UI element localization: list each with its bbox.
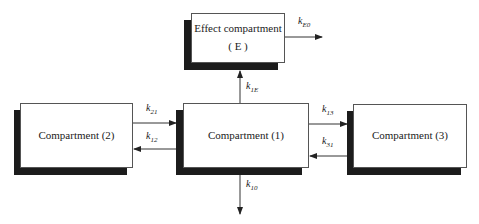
label-k12: k12 <box>146 130 157 144</box>
arrows-layer <box>0 0 479 224</box>
label-k13: k13 <box>322 103 333 117</box>
label-k1E: k1E <box>246 80 258 94</box>
label-k31: k31 <box>322 135 333 149</box>
label-k10: k10 <box>246 178 257 192</box>
label-kE0: kE0 <box>298 15 310 29</box>
label-k21: k21 <box>146 102 157 116</box>
